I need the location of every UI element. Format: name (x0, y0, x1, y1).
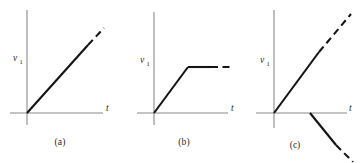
caption-a: (a) (0, 137, 120, 147)
y-axis-label-a: v (13, 53, 18, 63)
curve-falling-c-dashed (336, 145, 353, 162)
curve-falling-c-solid (310, 113, 336, 145)
curve-ramp-a-dashed (88, 28, 104, 45)
x-axis-label-c: t (349, 103, 352, 113)
chart-panel-c: v 1 t (c) (248, 0, 362, 163)
caption-b: (b) (123, 137, 245, 147)
curve-ramp-b-solid (154, 67, 188, 113)
curve-ramp-a-solid (27, 45, 88, 113)
chart-svg-c: v 1 t (c) (248, 0, 362, 163)
y-axis-label-b: v (140, 55, 145, 65)
curve-rising-c-solid (274, 52, 319, 113)
x-axis-label-a: t (106, 103, 109, 113)
y-axis-label-subscript-c: 1 (267, 60, 270, 67)
y-axis-label-c: v (260, 55, 265, 65)
chart-panel-a: v 1 t (a) (0, 0, 120, 163)
chart-svg-b: v 1 t (123, 0, 245, 135)
chart-svg-a: v 1 t (0, 0, 120, 135)
y-axis-label-subscript-b: 1 (147, 60, 150, 67)
chart-panel-b: v 1 t (b) (123, 0, 245, 163)
curve-rising-c-dashed (319, 14, 351, 52)
caption-c: (c) (290, 140, 301, 151)
x-axis-label-b: t (231, 103, 234, 113)
figure-panel-group: v 1 t (a) v 1 t (b) (0, 0, 362, 163)
y-axis-label-subscript-a: 1 (20, 58, 23, 65)
